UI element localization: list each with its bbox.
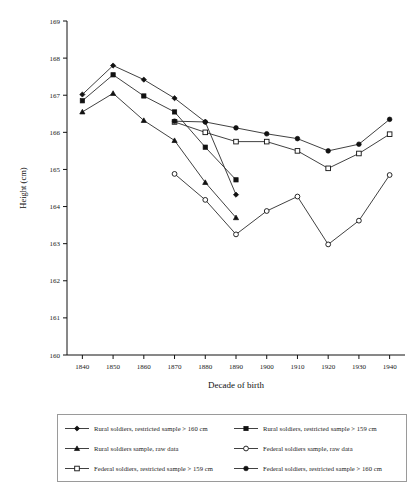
legend-label: Rural soldiers, restricted sample > 159 … [263, 425, 377, 432]
data-point-marker [203, 145, 207, 149]
y-axis-tick-label: 162 [50, 277, 61, 285]
data-point-marker [357, 142, 362, 147]
data-point-marker [234, 232, 239, 237]
data-point-marker [234, 126, 239, 131]
legend-item: Rural soldiers sample, raw data [64, 438, 233, 458]
x-axis-tick-label: 1940 [383, 363, 398, 371]
y-axis-tick-label: 163 [50, 240, 61, 248]
x-axis-tick-label: 1920 [321, 363, 336, 371]
legend-marker-filled-triangle-icon [64, 443, 90, 454]
legend-label: Federal soldiers sample, raw data [263, 445, 353, 452]
legend-item: Federal soldiers, restricted sample > 16… [233, 458, 402, 478]
legend-marker-filled-circle-icon [233, 463, 259, 474]
y-axis-tick-label: 166 [50, 129, 61, 137]
y-axis-tick-label: 168 [50, 55, 61, 63]
data-point-marker [203, 130, 208, 135]
y-axis-tick-label: 169 [50, 18, 61, 26]
data-point-marker [172, 110, 176, 114]
data-point-marker [80, 109, 85, 114]
legend-marker-open-square-icon [64, 463, 90, 474]
data-point-marker [111, 73, 115, 77]
y-axis-tick-label: 161 [50, 314, 61, 322]
data-point-marker [387, 132, 392, 137]
chart-container: 1601611621631641651661671681691840185018… [0, 0, 413, 497]
legend-item: Rural soldiers, restricted sample > 160 … [64, 418, 233, 438]
data-point-marker [295, 136, 300, 141]
x-axis-tick-label: 1870 [168, 363, 183, 371]
data-point-marker [326, 149, 331, 154]
data-point-marker [172, 119, 177, 124]
data-point-marker [141, 77, 146, 82]
data-point-marker [233, 192, 238, 197]
data-point-marker [264, 139, 269, 144]
legend-item: Federal soldiers sample, raw data [233, 438, 402, 458]
y-axis-title: Height (cm) [18, 167, 28, 208]
legend-marker-filled-square-icon [233, 423, 259, 434]
y-axis-tick-label: 165 [50, 166, 61, 174]
legend-label: Rural soldiers sample, raw data [94, 445, 179, 452]
data-point-marker [142, 94, 146, 98]
legend-label: Federal soldiers, restricted sample > 16… [263, 465, 382, 472]
data-point-marker [295, 194, 300, 199]
data-point-marker [295, 149, 300, 154]
legend-marker-filled-diamond-icon [64, 423, 90, 434]
legend-label: Rural soldiers, restricted sample > 160 … [94, 425, 208, 432]
data-point-marker [357, 151, 362, 156]
data-point-marker [234, 139, 239, 144]
data-point-marker [387, 173, 392, 178]
x-axis-tick-label: 1840 [75, 363, 90, 371]
legend-marker-open-circle-icon [233, 443, 259, 454]
data-point-marker [326, 242, 331, 247]
data-point-marker [203, 197, 208, 202]
x-axis-tick-label: 1930 [352, 363, 367, 371]
data-point-marker [172, 171, 177, 176]
legend-item: Federal soldiers, restricted sample > 15… [64, 458, 233, 478]
data-point-marker [264, 132, 269, 137]
x-axis-tick-label: 1900 [260, 363, 275, 371]
x-axis-tick-label: 1850 [106, 363, 121, 371]
y-axis-tick-label: 164 [50, 203, 61, 211]
data-point-marker [234, 178, 238, 182]
x-axis-tick-label: 1890 [229, 363, 244, 371]
legend-label: Federal soldiers, restricted sample > 15… [94, 465, 213, 472]
data-point-marker [203, 120, 208, 125]
line-chart: 1601611621631641651661671681691840185018… [0, 0, 413, 410]
y-axis-tick-label: 160 [50, 352, 61, 360]
chart-legend: Rural soldiers, restricted sample > 160 … [57, 414, 407, 482]
legend-item: Rural soldiers, restricted sample > 159 … [233, 418, 402, 438]
data-point-marker [264, 209, 269, 214]
x-axis-title: Decade of birth [208, 380, 264, 390]
data-point-marker [80, 99, 84, 103]
data-point-marker [110, 91, 115, 96]
x-axis-tick-label: 1880 [198, 363, 213, 371]
data-point-marker [326, 166, 331, 171]
data-point-marker [387, 117, 392, 122]
y-axis-tick-label: 167 [50, 92, 61, 100]
data-point-marker [357, 218, 362, 223]
data-point-marker [172, 138, 177, 143]
series-line-1 [82, 75, 236, 180]
x-axis-tick-label: 1910 [290, 363, 305, 371]
x-axis-tick-label: 1860 [137, 363, 152, 371]
